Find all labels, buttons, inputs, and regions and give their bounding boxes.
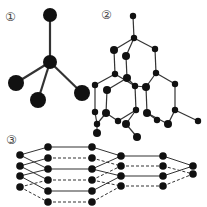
atom xyxy=(44,143,52,151)
bond xyxy=(92,169,121,176)
atom xyxy=(122,52,130,60)
atom xyxy=(8,75,24,91)
atom xyxy=(159,172,167,180)
bond xyxy=(163,174,193,186)
atom xyxy=(88,143,96,151)
atom xyxy=(44,176,52,184)
atom xyxy=(172,107,178,113)
atom xyxy=(159,162,167,170)
atom xyxy=(115,118,121,124)
atom xyxy=(94,121,100,127)
atom xyxy=(43,8,57,22)
atom xyxy=(43,55,57,69)
atom xyxy=(117,162,125,170)
atom xyxy=(142,83,150,91)
tetrahedral-molecule xyxy=(8,8,90,108)
atom xyxy=(88,198,96,206)
atom xyxy=(30,92,46,108)
atom xyxy=(103,86,111,94)
bond xyxy=(20,169,48,176)
atom xyxy=(44,198,52,206)
bond xyxy=(175,110,198,121)
atom xyxy=(44,187,52,195)
atom xyxy=(130,13,136,19)
diamond-lattice xyxy=(92,13,201,141)
atom xyxy=(16,162,24,170)
atom xyxy=(152,46,158,52)
bond xyxy=(155,49,156,73)
atom xyxy=(133,133,141,141)
atom xyxy=(189,170,197,178)
atom xyxy=(112,71,118,77)
graphite-layers xyxy=(16,143,197,206)
bond xyxy=(133,16,134,38)
atom xyxy=(88,176,96,184)
atom xyxy=(92,109,98,115)
bond xyxy=(156,73,175,84)
atom xyxy=(122,120,130,128)
atom xyxy=(153,70,159,76)
atom xyxy=(164,120,172,128)
bond xyxy=(20,158,48,166)
bond xyxy=(134,38,155,49)
atom xyxy=(133,107,139,113)
atom xyxy=(154,117,160,123)
atom xyxy=(93,129,101,137)
atom xyxy=(92,82,98,88)
atom xyxy=(132,83,138,89)
bond xyxy=(92,158,121,166)
bond xyxy=(163,156,193,166)
bond xyxy=(92,147,121,156)
atom xyxy=(102,109,110,117)
bond xyxy=(163,166,193,176)
atom xyxy=(88,165,96,173)
atom xyxy=(44,154,52,162)
bond xyxy=(95,74,115,85)
bond xyxy=(135,86,136,110)
molecular-diagram xyxy=(0,0,207,207)
atom xyxy=(117,152,125,160)
atom xyxy=(189,162,197,170)
atom xyxy=(159,152,167,160)
atom xyxy=(16,183,24,191)
atom xyxy=(16,151,24,159)
atom xyxy=(117,172,125,180)
atom xyxy=(195,118,201,124)
atom xyxy=(16,172,24,180)
atom xyxy=(159,182,167,190)
atom xyxy=(88,154,96,162)
atom xyxy=(117,182,125,190)
atom xyxy=(172,81,178,87)
atom xyxy=(110,46,118,54)
bond xyxy=(20,147,48,155)
atom xyxy=(44,165,52,173)
atom xyxy=(131,35,137,41)
atom xyxy=(123,74,131,82)
atom xyxy=(74,85,90,101)
atom xyxy=(88,187,96,195)
atom xyxy=(143,109,151,117)
